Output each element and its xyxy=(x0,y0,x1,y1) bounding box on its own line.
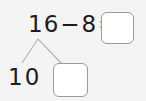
answer-input-box[interactable] xyxy=(101,12,134,44)
subtrahend-number: 8 xyxy=(82,11,98,37)
bond-part-left-value: 10 xyxy=(8,66,41,89)
minuend-number: 16 xyxy=(28,11,59,37)
math-worksheet-problem: 16−8= 10 xyxy=(0,0,146,101)
bond-line-left xyxy=(22,39,38,63)
bond-line-right xyxy=(38,39,62,64)
bond-part-right-input-box[interactable] xyxy=(53,63,88,97)
minus-operator: − xyxy=(59,11,81,37)
